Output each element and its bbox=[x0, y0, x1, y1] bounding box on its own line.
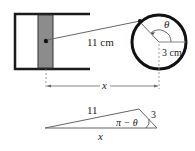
triangle-side-11-label: 11 bbox=[87, 104, 98, 116]
triangle-side-3-label: 3 bbox=[151, 109, 156, 120]
distance-label: x bbox=[101, 79, 107, 91]
triangle-angle-label: π − θ bbox=[116, 117, 138, 128]
radius-label: 3 cm bbox=[162, 47, 182, 58]
theta-label: θ bbox=[164, 18, 170, 30]
rod-length-label: 11 cm bbox=[87, 36, 114, 48]
triangle-base-label: x bbox=[97, 130, 103, 142]
